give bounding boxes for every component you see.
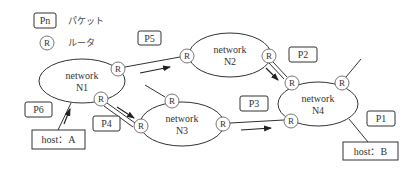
hosts: host：Ahost：B xyxy=(32,130,398,160)
network-ellipse xyxy=(189,33,271,77)
router-n4-r3: R xyxy=(284,114,298,128)
router-label: R xyxy=(184,51,190,61)
network-ellipse xyxy=(140,102,224,146)
packet-label: P1 xyxy=(376,113,387,124)
legend-packet-symbol: Pn xyxy=(40,15,51,26)
network-diagram: Pn パケット R ルータ networkN1networkN2networkN… xyxy=(0,0,419,172)
host-b: host：B xyxy=(343,142,398,160)
router-label: R xyxy=(220,119,226,129)
packet-label: P5 xyxy=(144,33,155,44)
network-n2: networkN2 xyxy=(189,33,271,77)
router-n1-r2: R xyxy=(94,92,108,106)
legend: Pn パケット R ルータ xyxy=(34,13,104,50)
legend-packet-label: パケット xyxy=(68,16,104,26)
network-id: N1 xyxy=(76,82,88,93)
legend-router: R ルータ xyxy=(40,36,95,50)
link-n3-stub xyxy=(145,85,165,97)
host-label: host：A xyxy=(42,134,77,145)
router-label: R xyxy=(289,78,295,88)
packet-p1: P1 xyxy=(367,111,395,126)
link-hostb-n4 xyxy=(349,119,368,142)
packet-label: P2 xyxy=(298,49,309,60)
router-label: R xyxy=(288,116,294,126)
link-n1-n2 xyxy=(125,57,180,67)
arrow-n2-to-n4-icon xyxy=(266,68,278,80)
network-label: network xyxy=(214,44,247,55)
host-a: host：A xyxy=(32,130,85,149)
router-label: R xyxy=(169,96,175,106)
router-n2-r2: R xyxy=(262,49,276,63)
router-n1-r1: R xyxy=(111,62,125,76)
router-n2-r1: R xyxy=(180,49,194,63)
arrow-n3-to-n4-icon xyxy=(241,128,271,130)
network-label: network xyxy=(66,70,99,81)
packet-p6: P6 xyxy=(25,102,52,117)
network-id: N2 xyxy=(224,56,236,67)
router-n3-r2: R xyxy=(134,119,148,133)
router-label: R xyxy=(98,94,104,104)
network-id: N3 xyxy=(176,125,188,136)
router-n4-r2: R xyxy=(335,76,349,90)
router-label: R xyxy=(339,78,345,88)
legend-router-symbol: R xyxy=(44,38,50,48)
packet-label: P4 xyxy=(101,118,112,129)
packet-p5: P5 xyxy=(138,31,161,45)
link-hosta-n1 xyxy=(58,103,71,130)
legend-router-label: ルータ xyxy=(68,38,95,48)
arrow-n1-to-n2-icon xyxy=(140,67,170,73)
network-n3: networkN3 xyxy=(140,102,224,146)
packet-label: P3 xyxy=(249,98,260,109)
router-n3-r3: R xyxy=(216,117,230,131)
router-n4-r1: R xyxy=(285,76,299,90)
router-label: R xyxy=(138,121,144,131)
host-label: host：B xyxy=(354,146,388,157)
packet-p3: P3 xyxy=(240,96,268,111)
legend-packet: Pn パケット xyxy=(34,13,104,28)
network-label: network xyxy=(166,113,199,124)
packet-p2: P2 xyxy=(289,47,317,62)
network-label: network xyxy=(302,93,335,104)
link-n3-n4 xyxy=(230,120,284,123)
packet-p4: P4 xyxy=(93,116,120,131)
packet-label: P6 xyxy=(33,104,44,115)
router-label: R xyxy=(266,51,272,61)
router-label: R xyxy=(115,64,121,74)
router-n3-r1: R xyxy=(165,94,179,108)
network-id: N4 xyxy=(312,105,324,116)
link-n4-stub xyxy=(346,59,361,77)
diagram-canvas: Pn パケット R ルータ networkN1networkN2networkN… xyxy=(0,0,419,172)
